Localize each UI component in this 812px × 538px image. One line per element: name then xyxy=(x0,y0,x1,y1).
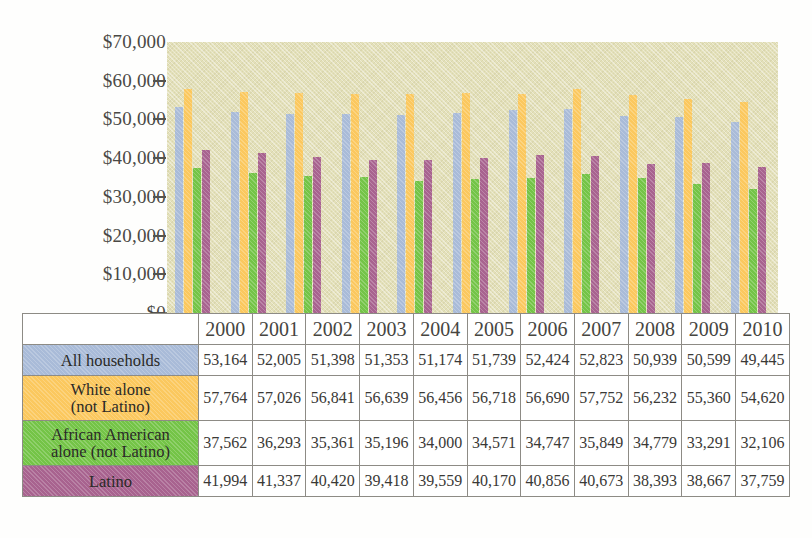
bar-group xyxy=(223,42,279,313)
table-cell-value: 49,445 xyxy=(736,345,790,376)
table-column-header-year: 2003 xyxy=(360,314,414,345)
bar xyxy=(582,174,590,313)
data-table: 2000200120022003200420052006200720082009… xyxy=(22,313,790,497)
table-row: African Americanalone (not Latino)37,562… xyxy=(23,421,790,466)
bar xyxy=(360,177,368,313)
bar-group xyxy=(445,42,501,313)
table-cell-value: 56,690 xyxy=(521,376,575,421)
bar xyxy=(638,178,646,313)
y-axis-tick-label: $70,000 xyxy=(58,34,166,50)
bar xyxy=(193,168,201,313)
table-cell-value: 54,620 xyxy=(736,376,790,421)
table-cell-value: 35,849 xyxy=(574,421,628,466)
bar xyxy=(453,113,461,313)
y-axis-tick-label: $30,000 xyxy=(58,189,166,205)
bar-group xyxy=(389,42,445,313)
table-cell-value: 52,005 xyxy=(252,345,306,376)
bar xyxy=(351,94,359,313)
table-cell-value: 37,562 xyxy=(198,421,252,466)
table-column-header-year: 2000 xyxy=(198,314,252,345)
bar xyxy=(731,122,739,313)
bar xyxy=(249,173,257,314)
table-body: All households53,16452,00551,39851,35351… xyxy=(23,345,790,497)
y-axis-tick-mark xyxy=(153,118,166,120)
bar-group xyxy=(167,42,223,313)
table-column-header-year: 2006 xyxy=(521,314,575,345)
table-cell-value: 35,196 xyxy=(360,421,414,466)
table-cell-value: 40,856 xyxy=(521,466,575,497)
bar xyxy=(527,178,535,313)
y-axis-tick-label: $60,000 xyxy=(58,73,166,89)
table-row: All households53,16452,00551,39851,35351… xyxy=(23,345,790,376)
bar xyxy=(406,94,414,313)
bar xyxy=(342,114,350,313)
y-axis-tick-label: $50,000 xyxy=(58,111,166,127)
table-cell-value: 56,232 xyxy=(628,376,682,421)
bar xyxy=(564,109,572,314)
bar xyxy=(758,167,766,313)
legend-row-label: All households xyxy=(23,345,199,376)
table-cell-value: 34,779 xyxy=(628,421,682,466)
table-cell-value: 37,759 xyxy=(736,466,790,497)
bar xyxy=(231,112,239,313)
table-cell-value: 39,559 xyxy=(413,466,467,497)
bar xyxy=(740,102,748,313)
table-cell-value: 38,393 xyxy=(628,466,682,497)
y-axis-tick-label: $10,000 xyxy=(58,266,166,282)
bar-group xyxy=(667,42,723,313)
bar xyxy=(702,163,710,313)
table-cell-value: 38,667 xyxy=(682,466,736,497)
table-cell-value: 56,841 xyxy=(306,376,360,421)
table-cell-value: 34,571 xyxy=(467,421,521,466)
y-axis-tick-mark xyxy=(153,80,166,82)
bar xyxy=(620,116,628,313)
table-column-header-year: 2005 xyxy=(467,314,521,345)
table-cell-value: 57,026 xyxy=(252,376,306,421)
bar xyxy=(573,89,581,313)
table-cell-value: 57,752 xyxy=(574,376,628,421)
table-cell-value: 56,639 xyxy=(360,376,414,421)
legend-row-label: African Americanalone (not Latino) xyxy=(23,421,199,466)
bar xyxy=(647,164,655,313)
bar-group xyxy=(278,42,334,313)
table-column-header-year: 2008 xyxy=(628,314,682,345)
table-cell-value: 55,360 xyxy=(682,376,736,421)
bar xyxy=(675,117,683,313)
bar xyxy=(369,160,377,313)
table-column-header-year: 2001 xyxy=(252,314,306,345)
bar xyxy=(509,110,517,313)
table-corner-blank xyxy=(23,314,199,345)
bar xyxy=(240,92,248,313)
legend-row-label: White alone(not Latino) xyxy=(23,376,199,421)
bar-chart: $70,000$60,000$50,000$40,000$30,000$20,0… xyxy=(0,0,812,315)
chart-figure: $70,000$60,000$50,000$40,000$30,000$20,0… xyxy=(0,0,812,538)
bar xyxy=(415,181,423,313)
table-cell-value: 39,418 xyxy=(360,466,414,497)
y-axis-tick-label: $20,000 xyxy=(58,228,166,244)
table-column-header-year: 2002 xyxy=(306,314,360,345)
table-cell-value: 57,764 xyxy=(198,376,252,421)
table-cell-value: 56,456 xyxy=(413,376,467,421)
bar-group xyxy=(611,42,667,313)
table-cell-value: 51,739 xyxy=(467,345,521,376)
table-column-header-year: 2004 xyxy=(413,314,467,345)
bar-group xyxy=(722,42,778,313)
table-cell-value: 40,420 xyxy=(306,466,360,497)
table-cell-value: 51,174 xyxy=(413,345,467,376)
bar-group xyxy=(334,42,390,313)
bar xyxy=(175,107,183,313)
bar xyxy=(184,89,192,313)
bar xyxy=(684,99,692,313)
table-row: White alone(not Latino)57,76457,02656,84… xyxy=(23,376,790,421)
bar xyxy=(591,156,599,313)
bar xyxy=(518,94,526,313)
table-cell-value: 35,361 xyxy=(306,421,360,466)
y-axis-tick-mark xyxy=(153,273,166,275)
table-column-header-year: 2010 xyxy=(736,314,790,345)
table-cell-value: 51,398 xyxy=(306,345,360,376)
bar xyxy=(424,160,432,313)
bar xyxy=(202,150,210,313)
bar xyxy=(749,189,757,313)
table-cell-value: 52,823 xyxy=(574,345,628,376)
table-header-row: 2000200120022003200420052006200720082009… xyxy=(23,314,790,345)
